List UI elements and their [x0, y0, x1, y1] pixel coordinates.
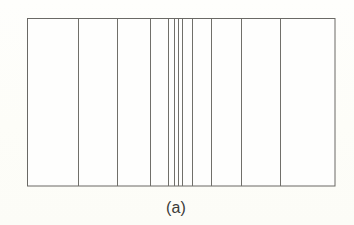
figure-panel: (a) — [0, 0, 354, 225]
figure-caption: (a) — [136, 199, 216, 217]
partition-diagram — [27, 18, 337, 188]
figure-frame — [27, 18, 335, 186]
plot-area — [27, 18, 335, 186]
